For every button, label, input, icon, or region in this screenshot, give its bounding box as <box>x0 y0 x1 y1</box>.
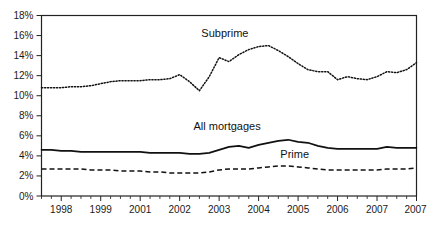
y-axis-tick-label: 14% <box>13 50 33 61</box>
y-axis-tick-label: 10% <box>13 90 33 101</box>
x-axis-tick-label: 2001 <box>129 204 152 215</box>
y-axis-tick-label: 0% <box>19 191 34 202</box>
x-axis-tick-label: 2005 <box>287 204 310 215</box>
x-axis-tick-label: 2003 <box>208 204 231 215</box>
x-axis-tick-label-final: 2007 <box>404 204 427 215</box>
x-axis-tick-label: 2007 <box>366 204 389 215</box>
y-axis-tick-label: 2% <box>19 170 34 181</box>
series-label-all-mortgages: All mortgages <box>193 120 261 132</box>
line-chart: 0%2%4%6%8%10%12%14%16%18% 19981999200120… <box>0 0 434 231</box>
x-axis-tick-label: 2002 <box>169 204 192 215</box>
x-axis-tick-label: 2004 <box>247 204 270 215</box>
y-axis-tick-label: 6% <box>19 130 34 141</box>
series-label-subprime: Subprime <box>201 27 248 39</box>
y-axis-tick-label: 8% <box>19 110 34 121</box>
x-axis-tick-label: 1999 <box>90 204 113 215</box>
y-axis-tick-label: 16% <box>13 30 33 41</box>
series-label-prime: Prime <box>280 148 309 160</box>
chart-container: 0%2%4%6%8%10%12%14%16%18% 19981999200120… <box>0 0 434 231</box>
x-axis-tick-label: 1998 <box>50 204 73 215</box>
y-axis-tick-label: 12% <box>13 70 33 81</box>
y-axis-tick-label: 18% <box>13 10 33 21</box>
x-axis-tick-label: 2006 <box>326 204 349 215</box>
y-axis-tick-label: 4% <box>19 150 34 161</box>
